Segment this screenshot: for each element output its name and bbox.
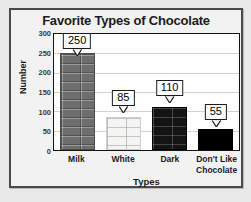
value-label-milk: 250 xyxy=(63,33,91,49)
x-tick-label-line1: Don't Like xyxy=(191,154,241,165)
value-label-dont-like-chocolate: 55 xyxy=(205,104,227,120)
x-tick-label-white: White xyxy=(100,154,147,165)
callout-tail-icon xyxy=(211,120,220,127)
chart-frame: Favorite Types of Chocolate Number 300 2… xyxy=(9,8,243,188)
value-label-white: 85 xyxy=(112,90,134,106)
x-tick-label-milk: Milk xyxy=(53,154,100,165)
value-callout-milk: 250 xyxy=(63,33,91,56)
y-tick-label: 0 xyxy=(47,147,51,156)
y-tick-label: 300 xyxy=(38,29,51,38)
bar-dark[interactable] xyxy=(152,107,187,150)
bar-white[interactable] xyxy=(106,117,141,150)
y-tick-label: 100 xyxy=(38,107,51,116)
value-callout-dont-like-chocolate: 55 xyxy=(205,104,227,127)
y-axis-title: Number xyxy=(18,54,28,100)
value-callout-white: 85 xyxy=(112,90,134,113)
value-callout-dark: 110 xyxy=(156,80,184,103)
x-axis-title: Types xyxy=(53,176,240,187)
bar-slot-dont-like-chocolate xyxy=(193,34,239,150)
plot-area: 250 85 110 55 xyxy=(53,33,240,151)
value-label-dark: 110 xyxy=(156,80,184,96)
chart-title: Favorite Types of Chocolate xyxy=(11,13,241,28)
y-tick-label: 50 xyxy=(43,127,51,136)
y-tick-label: 250 xyxy=(38,48,51,57)
y-axis-tick-labels: 300 250 200 150 100 50 0 xyxy=(31,33,51,151)
x-tick-label-dont-like-chocolate: Don't Like Chocolate xyxy=(191,154,241,175)
bar-milk[interactable] xyxy=(60,53,95,150)
x-tick-label-dark: Dark xyxy=(147,154,194,165)
x-tick-label-line2: Chocolate xyxy=(191,165,241,176)
callout-tail-icon xyxy=(165,96,174,103)
chart-page: Favorite Types of Chocolate Number 300 2… xyxy=(0,0,251,202)
callout-tail-icon xyxy=(73,49,82,56)
y-tick-label: 200 xyxy=(38,68,51,77)
y-tick-label: 150 xyxy=(38,88,51,97)
callout-tail-icon xyxy=(119,106,128,113)
bar-dont-like-chocolate[interactable] xyxy=(198,129,233,150)
